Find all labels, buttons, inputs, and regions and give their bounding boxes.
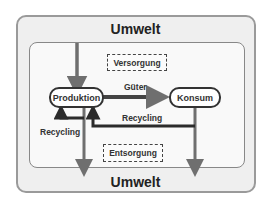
consumption-node: Konsum	[169, 87, 221, 108]
recycling-label-right: Recycling	[122, 113, 162, 123]
recycling-label-left: Recycling	[40, 127, 80, 137]
production-node: Produktion	[49, 87, 104, 108]
recycling-arrow-production	[61, 112, 84, 118]
disposal-box: Entsorgung	[103, 144, 163, 162]
supply-box: Versorgung	[107, 54, 167, 71]
flow-arrows	[0, 0, 271, 214]
goods-label: Güter	[124, 82, 147, 92]
